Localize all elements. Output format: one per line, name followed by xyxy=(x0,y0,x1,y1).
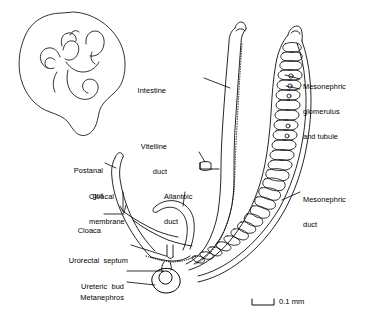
label-urorectal-septum-line-1: Urorectal septum xyxy=(16,257,128,265)
label-mesonephric-glomerulus-line-2: glomerulus xyxy=(303,108,375,116)
label-metanephros: Metanephros xyxy=(34,277,124,319)
label-mesonephric-glomerulus-line-3: and tubule xyxy=(303,133,375,141)
label-mesonephric-glomerulus-and-tubule: Mesonephric glomerulus and tubule xyxy=(303,66,375,158)
label-postanal-gut-line-1: Postanal xyxy=(43,167,103,175)
ureteric-bud-outline xyxy=(162,262,172,271)
vitelline-duct-stub xyxy=(200,162,219,171)
scale-bar-label: 0.1 mm xyxy=(279,297,304,306)
label-intestine: Intestine xyxy=(106,70,166,112)
label-metanephros-line-1: Metanephros xyxy=(34,294,124,302)
label-allantoic-duct-line-1: Allantoic xyxy=(164,193,224,201)
label-mesonephric-duct-line-1: Mesonephric xyxy=(303,196,373,204)
label-intestine-line-1: Intestine xyxy=(106,87,166,95)
label-cloacal-membrane-line-1: Cloacal xyxy=(89,193,151,201)
label-mesonephric-duct: Mesonephric duct xyxy=(303,179,373,246)
label-mesonephric-glomerulus-line-1: Mesonephric xyxy=(303,83,375,91)
label-cloaca-line-1: Cloaca xyxy=(51,227,101,235)
figure-panel: Intestine Mesonephric glomerulus and tub… xyxy=(0,0,376,332)
label-allantoic-duct: Allantoic duct xyxy=(164,176,224,243)
label-allantoic-duct-line-2: duct xyxy=(164,218,224,226)
label-mesonephric-duct-line-2: duct xyxy=(303,221,373,229)
label-vitelline-duct-line-1: Vitelline xyxy=(107,143,167,151)
scale-bar-mark xyxy=(252,299,274,305)
metanephros-outline xyxy=(152,268,180,293)
